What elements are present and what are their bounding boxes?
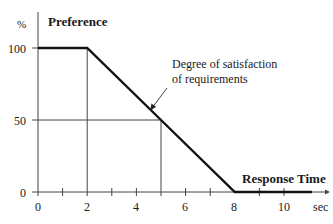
y-tick-label-100: 100 bbox=[8, 43, 26, 55]
y-unit-label: % bbox=[17, 18, 26, 30]
y-axis-title: Preference bbox=[48, 16, 107, 28]
x-tick-label-6: 6 bbox=[182, 201, 188, 213]
y-axis-ticks bbox=[32, 48, 38, 120]
x-tick-label-8: 8 bbox=[231, 201, 237, 213]
x-unit-label: sec bbox=[313, 201, 328, 213]
y-tick-label-0: 0 bbox=[20, 187, 26, 199]
annotation-arrow bbox=[152, 88, 167, 108]
y-tick-label-50: 50 bbox=[14, 115, 26, 127]
x-axis-title: Response Time bbox=[242, 173, 326, 185]
annotation-line-1: Degree of satisfaction bbox=[172, 58, 277, 70]
x-tick-label-2: 2 bbox=[84, 201, 90, 213]
reference-lines bbox=[38, 48, 161, 196]
x-tick-label-0: 0 bbox=[35, 201, 41, 213]
x-axis-arrow-icon bbox=[325, 190, 330, 195]
x-tick-label-4: 4 bbox=[133, 201, 139, 213]
annotation-line-2: of requirements bbox=[172, 73, 248, 85]
chart-canvas bbox=[0, 0, 333, 224]
x-tick-label-10: 10 bbox=[278, 201, 290, 213]
